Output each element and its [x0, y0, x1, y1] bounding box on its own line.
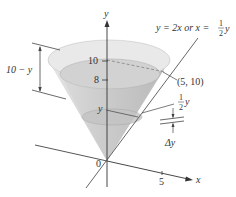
y-tick-label-8: 8 — [94, 74, 99, 85]
radius-frac-num: 1 — [179, 93, 183, 102]
radius-frac-den: 2 — [179, 103, 183, 112]
x-tick-label-5: 5 — [159, 176, 164, 187]
x-axis-label: x — [195, 174, 201, 185]
point-label: (5, 10) — [177, 76, 204, 88]
eq-frac-num: 1 — [219, 19, 223, 28]
y-axis-label: y — [103, 8, 109, 19]
slice-height-label: y — [97, 103, 103, 114]
dim-top-extension — [32, 43, 60, 50]
origin-label: 0 — [96, 158, 101, 169]
eq-frac-den: 2 — [219, 29, 223, 38]
delta-y-arrow-up-icon — [172, 123, 175, 128]
radius-var: y — [184, 96, 190, 107]
y-tick-label-10: 10 — [88, 55, 98, 66]
dim-bottom-extension — [32, 90, 66, 99]
dim-arrow-up-icon — [38, 46, 41, 51]
delta-y-label: Δy — [164, 137, 176, 148]
delta-y-line-bottom — [160, 121, 184, 124]
delta-y-line-top — [160, 117, 184, 120]
line-equation: y = 2x or x = — [155, 22, 209, 33]
delta-y-arrow-down-icon — [172, 114, 175, 119]
x-axis-arrow-icon — [185, 177, 193, 182]
cone-diagram: y 10 8 0 5 x y = 2x or x = 1 2 y (5, 10)… — [0, 0, 236, 197]
water-surface — [60, 59, 160, 89]
x-axis-front — [107, 161, 188, 179]
point-leader — [163, 72, 177, 80]
eq-var: y — [224, 23, 230, 34]
dim-arrow-down-icon — [38, 87, 41, 92]
distance-label: 10 − y — [6, 64, 33, 75]
y-axis-arrow-icon — [105, 20, 110, 27]
radius-leader — [142, 104, 174, 113]
